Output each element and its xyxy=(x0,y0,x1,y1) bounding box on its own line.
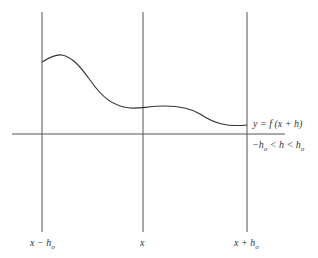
range-left: −h xyxy=(252,139,264,150)
curve-label: y = f (x + h) xyxy=(253,118,302,129)
tick-label-center: x xyxy=(140,237,144,248)
function-curve xyxy=(42,55,247,126)
range-label: −ho < h < ho xyxy=(252,139,304,153)
tick-label-left: x − ho xyxy=(30,237,55,251)
tick-label-right: x + ho xyxy=(234,237,259,251)
range-mid: < h < h xyxy=(267,139,301,150)
diagram-canvas xyxy=(0,0,318,258)
range-right-sub: o xyxy=(301,145,305,153)
